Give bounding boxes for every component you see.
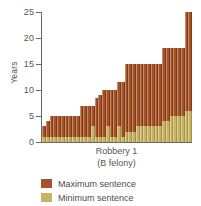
legend-swatch (41, 179, 52, 188)
y-axis-label: Years (10, 43, 19, 103)
chart-legend: Maximum sentenceMinimum sentence (41, 177, 201, 205)
x-axis-label: Robbery 1 (B felony) (41, 146, 192, 169)
y-axis-tick-label: 15 (24, 60, 34, 69)
y-axis-tick (36, 90, 41, 91)
legend-label: Minimum sentence (58, 193, 134, 203)
y-axis-tick (36, 12, 41, 13)
y-axis-tick (36, 64, 41, 65)
bar-minimum-sentence (188, 111, 192, 142)
y-axis-tick-label: 10 (24, 86, 34, 95)
x-axis-label-sub: (B felony) (41, 158, 192, 170)
sentencing-range-chart: 0510152025 Years Robbery 1 (B felony) Ma… (0, 0, 201, 206)
legend-item: Maximum sentence (41, 177, 201, 190)
y-axis-tick-label: 20 (24, 34, 34, 43)
x-axis-line (41, 142, 192, 143)
y-axis-tick-label: 0 (29, 138, 34, 147)
bar-series-group (42, 12, 192, 142)
y-axis-tick (36, 116, 41, 117)
legend-item: Minimum sentence (41, 191, 201, 204)
y-axis-tick-label: 5 (29, 112, 34, 121)
y-axis-tick-label: 25 (24, 8, 34, 17)
bar-column (188, 12, 192, 142)
y-axis-tick (36, 142, 41, 143)
y-axis-tick (36, 38, 41, 39)
legend-label: Maximum sentence (58, 179, 136, 189)
legend-swatch (41, 193, 52, 202)
x-axis-label-main: Robbery 1 (41, 146, 192, 158)
